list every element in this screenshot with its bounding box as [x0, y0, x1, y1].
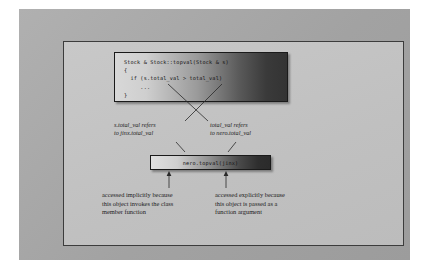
label-total-val: total_val refers to nero.total_val — [210, 121, 251, 138]
caption-explicit-access: accessed explicitly because this object … — [215, 191, 285, 217]
figure-page: Stock & Stock::topval(Stock & s) { if (s… — [0, 0, 425, 269]
caption-implicit-access: accessed implicitly because this object … — [102, 191, 173, 217]
call-box: nero.topval(jinx) — [150, 155, 271, 170]
code-box: Stock & Stock::topval(Stock & s) { if (s… — [114, 52, 288, 102]
label-s-total-val: s.total_val refers to jinx.total_val — [114, 121, 156, 138]
code-box-text: Stock & Stock::topval(Stock & s) { if (s… — [124, 58, 229, 99]
call-box-text: nero.topval(jinx) — [151, 160, 270, 166]
